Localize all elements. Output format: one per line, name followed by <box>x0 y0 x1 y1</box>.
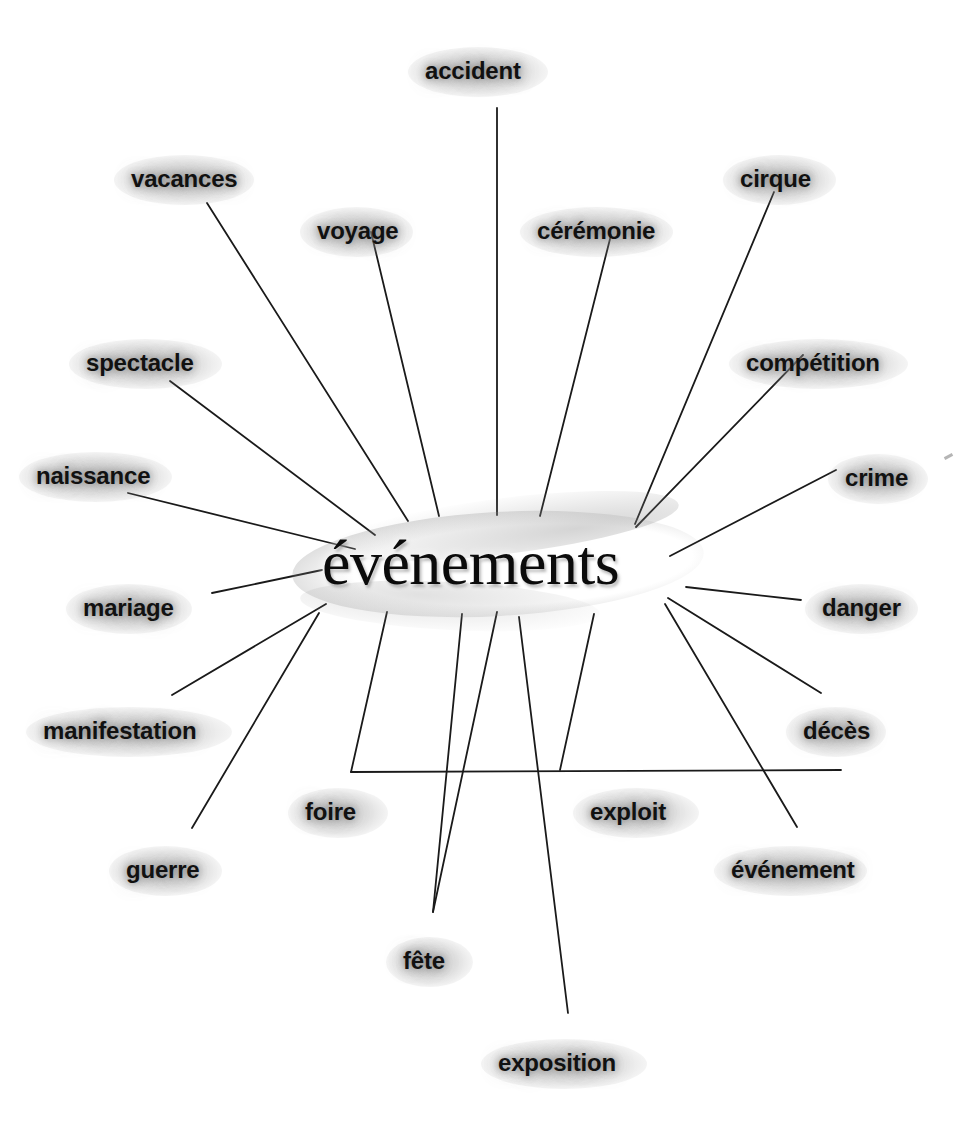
node-ceremonie[interactable]: cérémonie <box>537 218 655 244</box>
node-exposition[interactable]: exposition <box>498 1050 616 1076</box>
node-crime[interactable]: crime <box>845 465 908 491</box>
spoke-fete <box>433 612 497 912</box>
spoke-ceremonie <box>540 235 611 516</box>
spoke-foire <box>351 612 387 772</box>
spoke-deces <box>668 598 821 693</box>
node-spectacle[interactable]: spectacle <box>86 350 194 376</box>
spoke-crime <box>670 470 836 556</box>
node-guerre[interactable]: guerre <box>126 857 200 883</box>
spoke-manifestation <box>172 604 326 695</box>
spoke-foire <box>351 770 841 772</box>
spoke-spectacle <box>170 381 375 535</box>
hub-label: événements <box>322 528 619 598</box>
node-deces[interactable]: décès <box>803 718 870 744</box>
node-fete[interactable]: fête <box>403 948 445 974</box>
node-evenement[interactable]: événement <box>731 857 855 883</box>
spoke-exposition <box>519 617 568 1013</box>
node-naissance[interactable]: naissance <box>36 463 150 489</box>
spoke-exploit <box>560 614 594 770</box>
node-danger[interactable]: danger <box>822 595 901 621</box>
node-mariage[interactable]: mariage <box>83 595 174 621</box>
node-accident[interactable]: accident <box>425 58 521 84</box>
node-exploit[interactable]: exploit <box>590 799 666 825</box>
node-foire[interactable]: foire <box>305 799 356 825</box>
node-manifestation[interactable]: manifestation <box>43 718 196 744</box>
spoke-vacances <box>207 203 408 521</box>
spoke-competition <box>636 355 803 527</box>
spoke-voyage <box>371 232 439 516</box>
spoke-naissance <box>128 493 355 549</box>
mindmap-canvas: événements accidentvacancesvoyagecirquec… <box>0 0 979 1130</box>
spoke-fete <box>433 614 462 912</box>
node-vacances[interactable]: vacances <box>131 166 238 192</box>
spoke-mariage <box>212 570 322 593</box>
spoke-danger <box>686 587 801 600</box>
node-voyage[interactable]: voyage <box>317 218 399 244</box>
node-competition[interactable]: compétition <box>746 350 880 376</box>
node-cirque[interactable]: cirque <box>740 166 811 192</box>
